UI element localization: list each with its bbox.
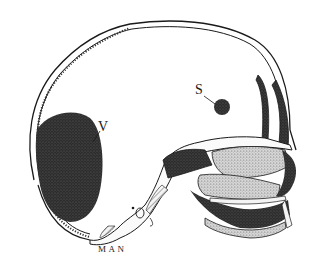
label-s: S (195, 83, 203, 97)
label-v: V (98, 120, 108, 134)
figure-caption: MAN (98, 244, 127, 254)
leader-line-s (204, 96, 215, 104)
skull-sagittal-illustration (0, 0, 309, 262)
region-s (214, 99, 230, 115)
